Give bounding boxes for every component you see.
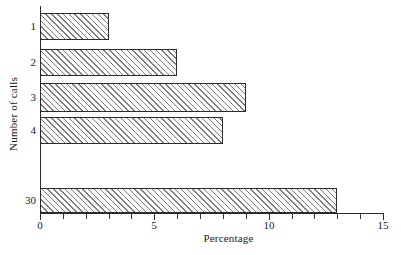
bar	[40, 117, 223, 144]
y-axis-category-label: 4	[0, 125, 36, 136]
y-axis-category-label: 3	[0, 92, 36, 103]
x-axis-tick	[337, 214, 338, 219]
x-axis-line	[40, 213, 384, 214]
bar-chart: Number of calls 051015123430 Percentage	[0, 0, 401, 255]
x-axis-tick-label: 10	[249, 219, 289, 231]
y-axis-category-label: 2	[0, 57, 36, 68]
x-axis-tick	[292, 214, 293, 219]
bar	[40, 188, 337, 213]
x-axis-tick-label: 5	[134, 219, 174, 231]
bar	[40, 83, 246, 112]
x-axis-tick	[246, 214, 247, 219]
y-axis-category-label: 30	[0, 195, 36, 206]
x-axis-tick	[131, 214, 132, 219]
x-axis-title-text: Percentage	[203, 232, 253, 244]
x-axis-tick-label: 15	[363, 219, 401, 231]
bar	[40, 13, 109, 40]
x-axis-tick	[63, 214, 64, 219]
x-axis-tick	[109, 214, 110, 219]
x-axis-tick-label: 0	[20, 219, 60, 231]
x-axis-tick	[223, 214, 224, 219]
bar	[40, 49, 177, 76]
x-axis-tick	[360, 214, 361, 219]
x-axis-tick	[200, 214, 201, 219]
y-axis-category-label: 1	[0, 21, 36, 32]
x-axis-title: Percentage	[0, 232, 401, 244]
x-axis-tick	[86, 214, 87, 219]
x-axis-tick	[314, 214, 315, 219]
x-axis-tick	[177, 214, 178, 219]
y-axis-title: Number of calls	[7, 54, 19, 174]
